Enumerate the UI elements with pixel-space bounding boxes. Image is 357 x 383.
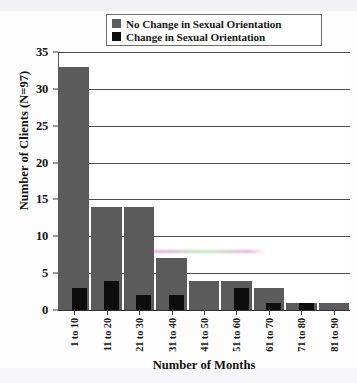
bar-segment-black bbox=[72, 288, 87, 310]
bar-slot bbox=[253, 52, 285, 310]
bar-slot bbox=[155, 52, 187, 310]
bar-change[interactable] bbox=[72, 288, 87, 310]
legend-label: No Change in Sexual Orientation bbox=[126, 18, 281, 30]
bar-no-change[interactable] bbox=[319, 303, 349, 310]
legend-item-change: Change in Sexual Orientation bbox=[112, 30, 317, 43]
bar-slot bbox=[90, 52, 122, 310]
x-tick-slot: 1 to 10 bbox=[58, 311, 90, 363]
x-tick-mark bbox=[334, 311, 335, 315]
y-tick-label: 5 bbox=[42, 266, 48, 281]
x-tick-label: 31 to 40 bbox=[166, 318, 177, 352]
y-axis: Number of Clients (N=97) 05101520253035 bbox=[0, 45, 58, 317]
bar-no-change[interactable] bbox=[189, 281, 219, 310]
x-tick-mark bbox=[139, 311, 140, 315]
bar-slot bbox=[58, 52, 90, 310]
bar-slot bbox=[285, 52, 317, 310]
x-tick-label: 11 to 20 bbox=[101, 318, 112, 351]
bar-segment-black bbox=[266, 303, 281, 310]
x-tick-label: 1 to 10 bbox=[69, 318, 80, 347]
x-tick-label: 61 to 70 bbox=[263, 318, 274, 352]
chart-page: No Change in Sexual Orientation Change i… bbox=[0, 0, 357, 383]
y-tick-label: 10 bbox=[36, 229, 48, 244]
chart-legend: No Change in Sexual Orientation Change i… bbox=[106, 14, 322, 46]
bar-change[interactable] bbox=[266, 303, 281, 310]
x-tick-mark bbox=[301, 311, 302, 315]
bar-change[interactable] bbox=[169, 295, 184, 310]
bar-slot bbox=[220, 52, 252, 310]
bar-segment-gray bbox=[59, 67, 89, 310]
bar-change[interactable] bbox=[234, 288, 249, 310]
bar-slot bbox=[188, 52, 220, 310]
bar-segment-black bbox=[104, 281, 119, 310]
y-tick-label: 35 bbox=[36, 45, 48, 60]
scan-artifact bbox=[0, 0, 357, 11]
bar-segment-black bbox=[234, 288, 249, 310]
x-tick-slot: 21 to 30 bbox=[123, 311, 155, 363]
bar-segment-black bbox=[136, 295, 151, 310]
x-tick-slot: 61 to 70 bbox=[253, 311, 285, 363]
x-axis-title: Number of Months bbox=[58, 358, 350, 373]
x-tick-mark bbox=[269, 311, 270, 315]
x-tick-label: 51 to 60 bbox=[231, 318, 242, 352]
y-axis-title: Number of Clients (N=97) bbox=[17, 41, 32, 241]
x-tick-slot: 71 to 80 bbox=[285, 311, 317, 363]
bar-segment-black bbox=[169, 295, 184, 310]
plot-area bbox=[58, 52, 350, 310]
x-tick-mark bbox=[172, 311, 173, 315]
bar-no-change[interactable] bbox=[59, 67, 89, 310]
bar-slot bbox=[123, 52, 155, 310]
x-tick-slot: 51 to 60 bbox=[220, 311, 252, 363]
bar-slot bbox=[318, 52, 350, 310]
bar-change[interactable] bbox=[136, 295, 151, 310]
square-swatch-icon bbox=[112, 32, 121, 41]
x-tick-slot: 31 to 40 bbox=[155, 311, 187, 363]
bar-segment-gray bbox=[189, 281, 219, 310]
y-tick-label: 30 bbox=[36, 81, 48, 96]
y-tick-label: 15 bbox=[36, 192, 48, 207]
x-tick-slot: 41 to 50 bbox=[188, 311, 220, 363]
x-tick-mark bbox=[107, 311, 108, 315]
x-tick-label: 71 to 80 bbox=[296, 318, 307, 352]
square-swatch-icon bbox=[112, 19, 121, 28]
bar-segment-black bbox=[299, 303, 314, 310]
x-tick-label: 21 to 30 bbox=[134, 318, 145, 352]
bar-change[interactable] bbox=[104, 281, 119, 310]
x-tick-slot: 81 to 90 bbox=[318, 311, 350, 363]
x-tick-label: 81 to 90 bbox=[328, 318, 339, 352]
x-tick-slot: 11 to 20 bbox=[90, 311, 122, 363]
y-tick-label: 20 bbox=[36, 155, 48, 170]
x-tick-mark bbox=[236, 311, 237, 315]
x-axis: 1 to 1011 to 2021 to 3031 to 4041 to 505… bbox=[58, 311, 350, 363]
x-tick-label: 41 to 50 bbox=[198, 318, 209, 352]
legend-label: Change in Sexual Orientation bbox=[126, 31, 265, 43]
y-tick-label: 25 bbox=[36, 118, 48, 133]
bar-change[interactable] bbox=[299, 303, 314, 310]
bar-group bbox=[58, 52, 350, 310]
legend-item-no-change: No Change in Sexual Orientation bbox=[112, 17, 317, 30]
y-tick-label: 0 bbox=[42, 303, 48, 318]
bar-segment-gray bbox=[319, 303, 349, 310]
x-tick-mark bbox=[74, 311, 75, 315]
x-tick-mark bbox=[204, 311, 205, 315]
